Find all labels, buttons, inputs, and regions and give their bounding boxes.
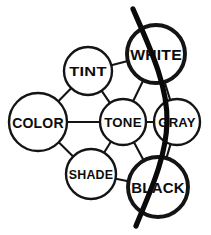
node-color[interactable]: COLOR [9,93,67,151]
edge-tone-shade [104,141,112,154]
node-layer: COLORTINTWHITETONEGRAYSHADEBLACK [9,25,200,217]
node-label-color: COLOR [12,114,64,131]
edge-tone-black [133,141,144,161]
node-label-tint: TINT [69,65,107,79]
node-label-black: BLACK [131,179,184,196]
node-tone[interactable]: TONE [100,99,146,145]
edge-color-shade [58,142,74,158]
node-white[interactable]: WHITE [127,25,185,83]
edge-tint-tone [101,90,111,104]
edge-color-tint [58,87,72,102]
node-label-gray: GRAY [158,116,195,130]
node-label-shade: SHADE [69,168,114,182]
node-shade[interactable]: SHADE [66,149,116,199]
color-terminology-diagram: COLORTINTWHITETONEGRAYSHADEBLACK [0,0,211,235]
node-tint[interactable]: TINT [64,47,112,95]
diagram-canvas: COLORTINTWHITETONEGRAYSHADEBLACK [0,0,211,235]
node-gray[interactable]: GRAY [154,99,200,145]
edge-white-tone [133,79,144,102]
node-label-tone: TONE [104,116,141,130]
